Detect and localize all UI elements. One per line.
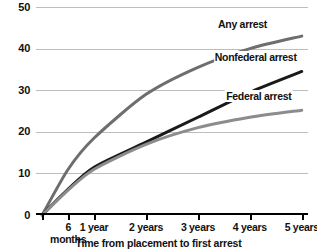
x-tick-label-4-years: 4 years — [233, 221, 267, 233]
y-tick-label-10: 10 — [0, 168, 30, 179]
series-line-any-arrest — [42, 36, 302, 215]
plot-area — [36, 7, 308, 215]
series-line-federal-arrest — [42, 110, 302, 215]
series-label-any-arrest: Any arrest — [217, 18, 268, 30]
series-curves — [36, 7, 308, 215]
y-tick-label-40: 40 — [0, 43, 30, 54]
x-tick-label-1-year: 1 year — [80, 221, 109, 233]
x-tick-origin — [42, 215, 44, 220]
y-tick-label-50: 50 — [0, 2, 30, 13]
x-tick-5-years — [302, 215, 304, 220]
x-tick-1-year — [94, 215, 96, 220]
x-tick-2-years — [146, 215, 148, 220]
y-tick-label-0: 0 — [0, 210, 30, 221]
x-tick-label-5-years: 5 years — [285, 221, 317, 233]
x-tick-4-years — [250, 215, 252, 220]
series-label-nonfederal-arrest: Nonfederal arrest — [214, 51, 298, 63]
x-tick-6 — [68, 215, 70, 220]
y-tick-label-20: 20 — [0, 126, 30, 137]
y-axis-labels: 01020304050 — [0, 7, 30, 215]
line-chart: 01020304050 Any arrestNonfederal arrestF… — [0, 0, 317, 251]
x-axis-title: Time from placement to first arrest — [0, 237, 317, 249]
x-tick-3-years — [198, 215, 200, 220]
x-tick-label-3-years: 3 years — [181, 221, 215, 233]
x-tick-label-2-years: 2 years — [129, 221, 163, 233]
y-tick-label-30: 30 — [0, 85, 30, 96]
series-label-federal-arrest: Federal arrest — [225, 90, 292, 102]
x-axis-line — [36, 213, 308, 215]
